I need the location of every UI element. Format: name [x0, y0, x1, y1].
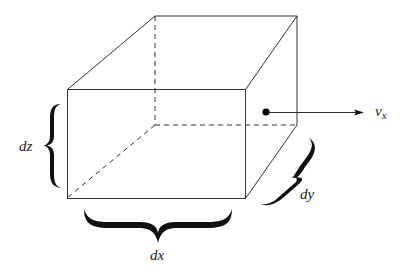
- velocity-label-subscript: x: [382, 109, 387, 121]
- edge-top-right-depth: [246, 16, 298, 90]
- box-visible-edges: [68, 16, 298, 199]
- box-front-face: [68, 90, 246, 199]
- dx-label: dx: [150, 248, 164, 263]
- velocity-label: vx: [375, 104, 387, 121]
- velocity-label-base: v: [375, 103, 382, 119]
- velocity-arrow: [269, 110, 364, 116]
- point-marker: [262, 108, 269, 115]
- dy-label: dy: [300, 187, 314, 202]
- box-hidden-edges: [67, 16, 297, 198]
- dz-brace: [43, 104, 61, 188]
- dz-label: dz: [19, 139, 32, 154]
- edge-bottom-right-depth: [246, 125, 298, 199]
- edge-top-left-depth: [68, 16, 156, 90]
- hidden-edge-depth: [67, 125, 155, 198]
- dx-brace: [84, 209, 232, 243]
- volume-element-diagram: dz dx dy vx: [0, 0, 408, 270]
